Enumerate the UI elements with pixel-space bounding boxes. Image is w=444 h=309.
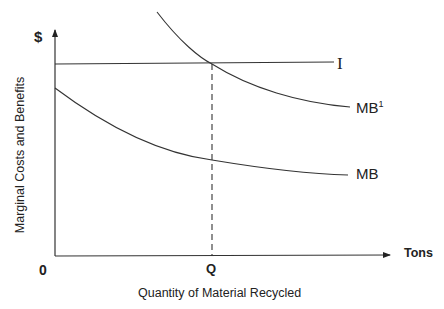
chart: $ I MB1 MB Tons 0 Q Quantity of Material…: [0, 0, 444, 309]
y-axis-title: Marginal Costs and Benefits: [13, 77, 27, 233]
mb-label: MB: [356, 165, 379, 182]
q-tick-label: Q: [206, 261, 216, 276]
mb1-label-text: MB: [356, 99, 379, 116]
x-axis-title: Quantity of Material Recycled: [138, 286, 301, 300]
series-mb-curve: [55, 88, 348, 175]
series-i-line: [55, 62, 334, 64]
x-unit-label: Tons: [404, 246, 433, 260]
mb1-label: MB1: [356, 99, 384, 116]
mb1-superscript: 1: [379, 99, 384, 109]
series-mb1-curve: [157, 12, 350, 107]
x-axis: [55, 255, 390, 256]
y-unit-label: $: [34, 28, 42, 45]
origin-label: 0: [39, 262, 47, 278]
i-label: I: [337, 54, 343, 74]
chart-plot: [0, 0, 444, 309]
